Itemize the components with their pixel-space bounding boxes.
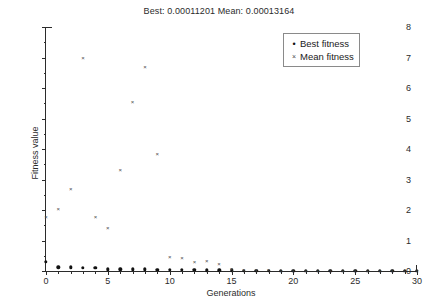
x-tick-minor (405, 271, 406, 274)
x-tick-minor (306, 271, 307, 274)
data-point-mean (192, 259, 197, 264)
x-tick-minor (157, 271, 158, 274)
y-tick (42, 119, 46, 120)
fitness-plot-figure: Best: 0.00011201 Mean: 0.00013164 Fitnes… (0, 0, 438, 306)
x-tick-minor (269, 271, 270, 274)
chart-title: Best: 0.00011201 Mean: 0.00013164 (0, 6, 438, 16)
data-point-mean (105, 226, 110, 231)
legend-item-mean: × Mean fitness (288, 50, 354, 63)
y-tick (42, 58, 46, 59)
x-tick-minor (145, 271, 146, 274)
legend-label-best: Best fitness (300, 38, 349, 49)
x-tick-minor (318, 271, 319, 274)
x-tick-minor (256, 271, 257, 274)
data-point-mean (68, 186, 73, 191)
dot-marker-icon: • (288, 39, 300, 49)
x-tick-minor (71, 271, 72, 274)
data-point-mean (56, 207, 61, 212)
x-tick-minor (343, 271, 344, 274)
x-tick-label: 10 (165, 276, 175, 286)
data-point-best (57, 266, 60, 269)
plot-area: 012345678051015202530 (45, 27, 417, 272)
data-point-mean (93, 214, 98, 219)
x-tick-minor (182, 271, 183, 274)
data-point-best (81, 266, 84, 269)
y-tick (42, 241, 46, 242)
x-tick (46, 271, 47, 275)
y-tick-minor (44, 134, 47, 135)
data-point-mean (204, 259, 209, 264)
x-tick-minor (368, 271, 369, 274)
data-point-mean (44, 214, 49, 219)
x-tick-minor (207, 271, 208, 274)
x-tick-minor (133, 271, 134, 274)
x-tick (293, 271, 294, 275)
x-tick (108, 271, 109, 275)
y-tick-label: 1 (406, 236, 411, 246)
y-tick-label: 0 (406, 266, 411, 276)
data-point-mean (167, 255, 172, 260)
plot-surface (46, 27, 417, 271)
y-tick (42, 180, 46, 181)
y-tick-label: 8 (406, 22, 411, 32)
x-tick-label: 5 (105, 276, 110, 286)
y-tick (42, 88, 46, 89)
x-tick-label: 20 (288, 276, 298, 286)
x-tick-minor (58, 271, 59, 274)
axis-corner-stub-right (416, 265, 417, 271)
x-tick (355, 271, 356, 275)
y-axis-label: Fitness value (30, 126, 40, 179)
chart-legend: • Best fitness × Mean fitness (283, 33, 360, 67)
x-axis-label: Generations (45, 288, 417, 298)
data-point-best (69, 266, 72, 269)
data-point-mean (155, 151, 160, 156)
axis-corner-stub-top (46, 27, 52, 28)
x-tick-minor (194, 271, 195, 274)
y-tick-label: 5 (406, 114, 411, 124)
data-point-mean (130, 99, 135, 104)
y-tick-label: 6 (406, 83, 411, 93)
data-point-mean (142, 64, 147, 69)
x-tick-label: 15 (226, 276, 236, 286)
x-tick-minor (392, 271, 393, 274)
y-tick-minor (44, 73, 47, 74)
y-tick-minor (44, 225, 47, 226)
y-tick-label: 4 (406, 144, 411, 154)
y-tick-minor (44, 103, 47, 104)
x-tick-minor (120, 271, 121, 274)
x-tick (232, 271, 233, 275)
y-tick-minor (44, 164, 47, 165)
data-point-mean (180, 256, 185, 261)
y-tick (42, 149, 46, 150)
data-point-best (94, 266, 97, 269)
x-tick-minor (244, 271, 245, 274)
y-tick-minor (44, 195, 47, 196)
x-tick-label: 30 (412, 276, 422, 286)
x-tick-minor (281, 271, 282, 274)
x-tick-label: 0 (43, 276, 48, 286)
data-point-mean (217, 262, 222, 267)
y-tick-label: 7 (406, 53, 411, 63)
legend-item-best: • Best fitness (288, 37, 354, 50)
y-tick-minor (44, 256, 47, 257)
data-point-best (44, 260, 47, 263)
y-tick-label: 3 (406, 175, 411, 185)
y-tick-label: 2 (406, 205, 411, 215)
x-tick (417, 271, 418, 275)
x-tick-minor (95, 271, 96, 274)
x-tick-minor (380, 271, 381, 274)
legend-label-mean: Mean fitness (300, 51, 354, 62)
x-tick-minor (219, 271, 220, 274)
cross-marker-icon: × (288, 53, 300, 60)
x-tick-minor (83, 271, 84, 274)
data-point-mean (81, 55, 86, 60)
x-tick-label: 25 (350, 276, 360, 286)
y-tick-minor (44, 42, 47, 43)
x-tick (170, 271, 171, 275)
x-tick-minor (330, 271, 331, 274)
data-point-mean (118, 168, 123, 173)
y-tick (42, 210, 46, 211)
